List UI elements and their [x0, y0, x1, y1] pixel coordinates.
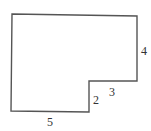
l-shaped-figure [11, 14, 137, 112]
label-notch-side: 2 [93, 93, 99, 107]
label-bottom-side: 5 [47, 115, 53, 129]
label-right-side: 4 [141, 44, 147, 58]
label-notch-top: 3 [109, 85, 115, 99]
diagram-canvas: 4 3 2 5 [0, 0, 151, 131]
